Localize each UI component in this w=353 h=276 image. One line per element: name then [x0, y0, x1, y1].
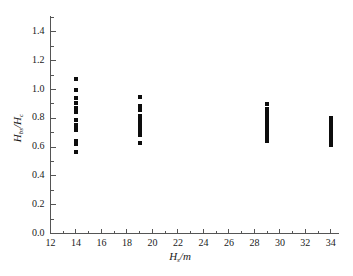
x-tick-label: 26	[218, 237, 240, 248]
x-tick-label: 32	[294, 237, 316, 248]
x-tick-label: 24	[192, 237, 214, 248]
x-tick-label: 30	[269, 237, 291, 248]
y-axis-title: Hbs/Hc	[0, 116, 58, 140]
y-axis-denominator-symbol: H	[11, 117, 23, 125]
y-axis-numerator-symbol: H	[11, 134, 23, 142]
x-axis-unit: /m	[180, 250, 191, 262]
y-axis-title-text: Hbs/Hc	[11, 114, 25, 142]
scatter-plot-figure: 0.00.20.40.60.81.01.21.4 121416182022242…	[0, 0, 353, 276]
x-tick-label: 18	[116, 237, 138, 248]
x-axis-title-text: Hs/m	[169, 250, 191, 262]
y-axis-denominator-subscript: c	[17, 114, 25, 117]
x-tick-label: 34	[320, 237, 342, 248]
x-axis-title: Hs/m	[140, 250, 220, 264]
x-tick-label: 12	[40, 237, 62, 248]
x-tick-label: 22	[167, 237, 189, 248]
y-axis-divider: /	[11, 125, 23, 128]
x-tick-label: 20	[141, 237, 163, 248]
x-tick-label: 14	[65, 237, 87, 248]
y-axis-numerator-subscript: bs	[17, 128, 25, 134]
x-tick-label: 16	[90, 237, 112, 248]
x-tick-label: 28	[243, 237, 265, 248]
x-axis-symbol: H	[169, 250, 177, 262]
